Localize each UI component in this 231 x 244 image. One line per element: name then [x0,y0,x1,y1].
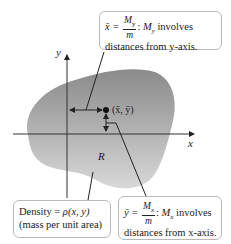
region-label: R [98,150,105,162]
centroid-label: (x̄, ȳ) [112,104,134,115]
centroid-diagram: y x R (x̄, ȳ) x̄ = My m : My involves di… [0,0,231,244]
region-r [27,69,175,188]
centroid-point [103,107,109,113]
y-axis-label: y [56,46,61,58]
x-axis-label: x [188,137,193,149]
y-bar-description: distances from x-axis. [124,226,217,239]
callout-y-bar: ȳ = Mx m : Mx involves distances from x-… [118,196,222,240]
fraction-mx-over-m: Mx m [142,201,155,226]
callout-x-bar: x̄ = My m : My involves distances from y… [99,11,222,50]
fraction-my-over-m: My m [123,15,136,40]
y-bar-lhs: ȳ = [124,207,138,218]
x-bar-description: distances from y-axis. [105,40,217,53]
x-bar-lhs: x̄ = [105,21,119,32]
callout-density: Density = ρ(x, y) (mass per unit area) [13,200,111,238]
